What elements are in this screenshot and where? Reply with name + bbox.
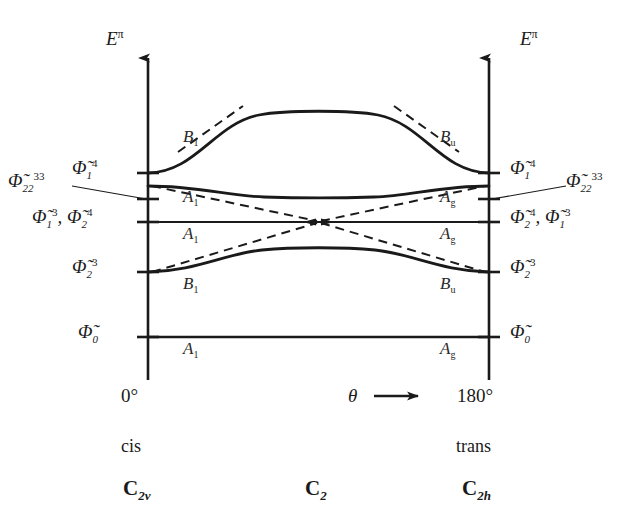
left-state-phi-0: Φ̃0: [78, 322, 98, 345]
point-group-c2: C2: [305, 478, 327, 502]
right-state-phi-2-3: Φ̃23: [510, 257, 535, 280]
right-axis-label: Eπ: [520, 28, 538, 48]
sym-label-a1-middle: A1: [183, 225, 198, 245]
isomer-label-cis: cis: [121, 437, 141, 455]
diabatic-upper-left: [152, 186, 317, 221]
right-state-phi-0: Φ̃0: [510, 322, 530, 345]
right-state-phi-2-4-phi-1-3: Φ̃24, Φ̃13: [510, 207, 570, 230]
adiabatic-curves: [148, 111, 489, 337]
upper-curve-B: [148, 111, 489, 173]
point-group-c2v: C2v: [123, 478, 150, 502]
leader-line-left: [72, 186, 146, 199]
left-axis-label: Eπ: [106, 28, 124, 48]
lower-curve-B: [148, 248, 489, 272]
sym-label-bu-lower: Bu: [440, 275, 455, 295]
left-state-phi-22-33: Φ̃2233: [8, 171, 44, 194]
left-state-phi-2-3: Φ̃23: [72, 257, 97, 280]
left-state-phi-1-3-phi-2-4: Φ̃13, Φ̃24: [32, 207, 92, 230]
point-group-c2h: C2h: [462, 478, 491, 502]
diabatic-upper-right: [321, 186, 485, 221]
angle-label-180: 180°: [457, 386, 493, 405]
angle-label-0: 0°: [121, 386, 138, 405]
right-state-phi-1-4: Φ̃14: [510, 158, 535, 181]
leader-line-right: [492, 186, 566, 199]
sym-label-b1-upper: B1: [183, 128, 198, 148]
isomer-label-trans: trans: [456, 437, 491, 455]
sym-label-a1-upper: A1: [183, 188, 198, 208]
left-state-phi-1-4: Φ̃14: [72, 158, 97, 181]
sym-label-a1-ground: A1: [183, 340, 198, 360]
sym-label-ag-middle: Ag: [440, 225, 455, 245]
correlation-diagram-figure: Eπ Eπ Φ̃14 Φ̃2233 Φ̃13, Φ̃24 Φ̃23 Φ̃0 Φ̃…: [0, 0, 626, 518]
right-state-phi-22-33: Φ̃2233: [566, 171, 602, 194]
sym-label-b1-lower: B1: [183, 275, 198, 295]
sym-label-ag-upper: Ag: [440, 188, 455, 208]
sym-label-ag-ground: Ag: [440, 340, 455, 360]
theta-symbol: θ: [348, 386, 357, 405]
sym-label-bu-upper: Bu: [440, 128, 455, 148]
